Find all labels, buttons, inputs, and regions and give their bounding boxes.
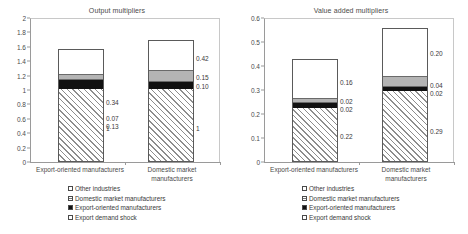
bar-domestic-market-value-added[interactable] xyxy=(382,28,428,162)
y-tick-label: 0.4 xyxy=(234,63,260,70)
legend-output-multipliers: Other industries Domestic market manufac… xyxy=(68,184,166,222)
chart-title-value-added-multipliers: Value added multipliers xyxy=(234,7,468,14)
legend-swatch-export-oriented-icon xyxy=(302,205,307,210)
y-tick-mark xyxy=(27,162,30,163)
y-tick-mark xyxy=(261,162,264,163)
bar-segment-other-industries[interactable] xyxy=(59,50,103,75)
legend-item[interactable]: Export demand shock xyxy=(302,213,400,223)
y-tick-mark xyxy=(27,104,30,105)
bar-segment-export-demand-shock[interactable] xyxy=(149,89,193,161)
y-tick-label: 0.2 xyxy=(0,144,26,151)
y-tick-label: 0.6 xyxy=(0,115,26,122)
legend-item[interactable]: Export demand shock xyxy=(68,213,166,223)
legend-item[interactable]: Other industries xyxy=(302,184,400,194)
y-tick-label: 0.3 xyxy=(234,87,260,94)
x-category-line1: Domestic market xyxy=(358,166,454,175)
chart-panel-value-added-multipliers: Value added multipliers 0.6 0.5 0.4 0.3 … xyxy=(234,0,468,234)
y-tick-label: 1.4 xyxy=(0,58,26,65)
y-tick-mark xyxy=(27,18,30,19)
y-tick-label: 0 xyxy=(234,159,260,166)
legend-label: Export demand shock xyxy=(75,214,137,221)
y-tick-mark xyxy=(261,90,264,91)
bar-domestic-market-output[interactable] xyxy=(148,40,194,162)
value-label-other-industries: 0.34 xyxy=(106,99,119,106)
bar-segment-export-demand-shock[interactable] xyxy=(59,89,103,161)
y-tick-mark xyxy=(27,147,30,148)
legend-label: Other industries xyxy=(75,185,120,192)
y-tick-mark xyxy=(27,75,30,76)
y-tick-label: 0.5 xyxy=(234,39,260,46)
bar-segment-domestic-market[interactable] xyxy=(149,71,193,82)
legend-item[interactable]: Export-oriented manufacturers xyxy=(68,203,166,213)
y-tick-label: 1.2 xyxy=(0,72,26,79)
y-tick-mark xyxy=(27,32,30,33)
y-tick-label: 1 xyxy=(0,87,26,94)
value-label-other-industries: 0.16 xyxy=(340,79,353,86)
y-tick-label: 0.8 xyxy=(0,101,26,108)
y-axis-left: 2 1.8 1.6 1.4 1.2 1 0.8 0.6 0.4 0.2 0 xyxy=(0,0,28,234)
legend-label: Other industries xyxy=(309,185,354,192)
legend-swatch-export-demand-shock-icon xyxy=(68,215,73,220)
x-category-line2: manufacturers xyxy=(124,175,220,184)
value-label-other-industries: 0.42 xyxy=(196,55,209,62)
bar-segment-other-industries[interactable] xyxy=(293,60,337,98)
legend-swatch-domestic-market-icon xyxy=(302,196,307,201)
bar-segment-export-demand-shock[interactable] xyxy=(383,91,427,161)
value-label-export-demand-shock: 1 xyxy=(106,125,110,132)
figure-root: Output multipliers 2 1.8 1.6 1.4 1.2 1 0… xyxy=(0,0,468,234)
x-category-line1: Export-oriented manufacturers xyxy=(32,166,128,175)
bar-segment-other-industries[interactable] xyxy=(149,41,193,71)
y-tick-mark xyxy=(261,42,264,43)
x-category-line2: manufacturers xyxy=(358,175,454,184)
x-tick-mark xyxy=(454,162,455,165)
bar-segment-export-oriented[interactable] xyxy=(149,82,193,89)
legend-item[interactable]: Export-oriented manufacturers xyxy=(302,203,400,213)
bar-segment-other-industries[interactable] xyxy=(383,29,427,77)
y-tick-mark xyxy=(261,18,264,19)
y-tick-label: 2 xyxy=(0,15,26,22)
value-label-other-industries: 0.20 xyxy=(430,50,443,57)
y-tick-label: 0.1 xyxy=(234,135,260,142)
x-tick-mark xyxy=(220,162,221,165)
value-label-domestic-market: 0.04 xyxy=(430,82,443,89)
y-tick-mark xyxy=(27,133,30,134)
x-category-line1: Domestic market xyxy=(124,166,220,175)
legend-item[interactable]: Domestic market manufacturers xyxy=(68,194,166,204)
legend-swatch-other-industries-icon xyxy=(302,186,307,191)
y-tick-label: 0.4 xyxy=(0,130,26,137)
x-category-line1: Export-oriented manufacturers xyxy=(266,166,362,175)
legend-label: Domestic market manufacturers xyxy=(75,195,166,202)
legend-swatch-export-demand-shock-icon xyxy=(302,215,307,220)
legend-swatch-other-industries-icon xyxy=(68,186,73,191)
legend-item[interactable]: Domestic market manufacturers xyxy=(302,194,400,204)
y-axis-right: 0.6 0.5 0.4 0.3 0.2 0.1 0 xyxy=(234,0,262,234)
legend-label: Export-oriented manufacturers xyxy=(309,204,395,211)
y-tick-mark xyxy=(27,118,30,119)
chart-title-output-multipliers: Output multipliers xyxy=(0,7,234,14)
value-label-export-oriented: 0.10 xyxy=(196,83,209,90)
bar-export-oriented-output[interactable] xyxy=(58,49,104,162)
x-category-label-export-oriented: Export-oriented manufacturers xyxy=(32,166,128,175)
y-tick-label: 0.2 xyxy=(234,111,260,118)
value-label-export-demand-shock: 1 xyxy=(196,125,200,132)
bar-segment-domestic-market[interactable] xyxy=(383,77,427,87)
y-tick-label: 0.6 xyxy=(234,15,260,22)
chart-panel-output-multipliers: Output multipliers 2 1.8 1.6 1.4 1.2 1 0… xyxy=(0,0,234,234)
bar-segment-export-demand-shock[interactable] xyxy=(293,108,337,161)
legend-swatch-domestic-market-icon xyxy=(68,196,73,201)
y-tick-mark xyxy=(27,90,30,91)
legend-label: Domestic market manufacturers xyxy=(309,195,400,202)
value-label-domestic-market: 0.15 xyxy=(196,74,209,81)
x-category-label-domestic-market: Domestic market manufacturers xyxy=(124,166,220,183)
legend-item[interactable]: Other industries xyxy=(68,184,166,194)
bar-segment-export-oriented[interactable] xyxy=(59,80,103,89)
y-tick-label: 0 xyxy=(0,159,26,166)
bar-export-oriented-value-added[interactable] xyxy=(292,59,338,162)
y-tick-label: 1.6 xyxy=(0,43,26,50)
legend-value-added-multipliers: Other industries Domestic market manufac… xyxy=(302,184,400,222)
y-tick-mark xyxy=(261,138,264,139)
y-tick-mark xyxy=(27,46,30,47)
y-tick-mark xyxy=(261,66,264,67)
value-label-export-demand-shock: 0.22 xyxy=(340,133,353,140)
legend-label: Export demand shock xyxy=(309,214,371,221)
